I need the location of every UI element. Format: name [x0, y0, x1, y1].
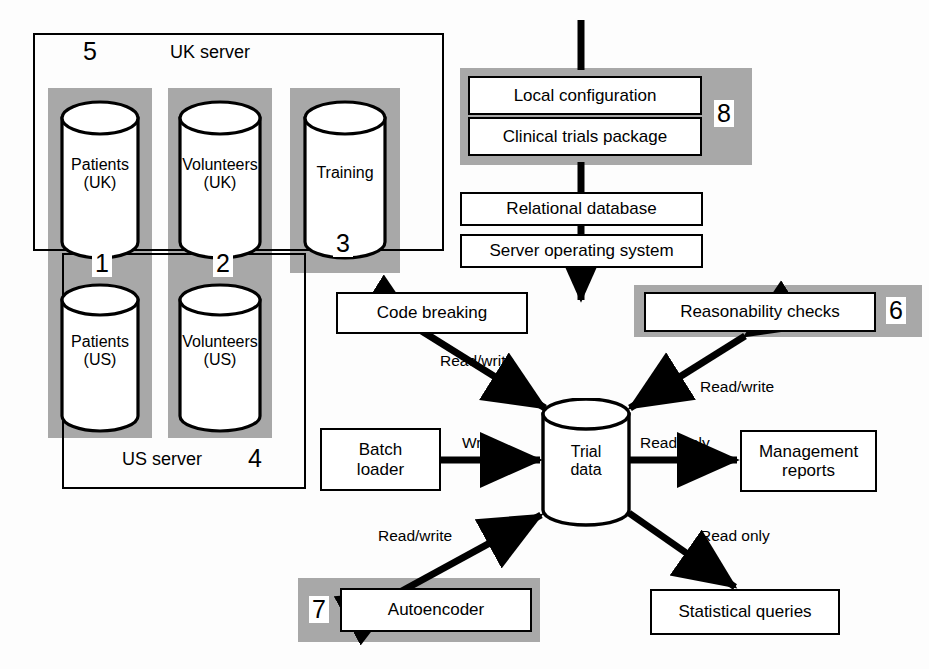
- db-label-line2: (US): [84, 351, 117, 368]
- box-statistical-queries[interactable]: Statistical queries: [650, 589, 840, 635]
- badge-7: 7: [309, 596, 329, 623]
- db-label-line2: (UK): [204, 174, 237, 191]
- trial-data-line1: Trial: [571, 443, 602, 460]
- trial-data-label: Trial data: [541, 443, 631, 479]
- db-patients-uk: Patients (UK): [60, 100, 140, 260]
- db-label: Volunteers (US): [178, 333, 262, 369]
- diagram-canvas: UK server 5 US server 4 Patients (UK) Vo…: [0, 0, 929, 669]
- db-label-line2: (US): [204, 351, 237, 368]
- edge-label-batch-write: Write: [462, 434, 498, 452]
- db-label-line1: Training: [316, 164, 373, 181]
- db-label-line1: Volunteers: [182, 333, 258, 350]
- box-batch-loader[interactable]: Batch loader: [320, 428, 441, 491]
- edge-label-management-read: Read only: [640, 434, 710, 452]
- db-label-line1: Volunteers: [182, 156, 258, 173]
- db-volunteers-us: Volunteers (US): [178, 283, 262, 433]
- db-label-line2: (UK): [84, 174, 117, 191]
- edge-label-reasonability: Read/write: [700, 378, 774, 396]
- box-code-breaking[interactable]: Code breaking: [336, 292, 528, 334]
- edge-label-autoencoder: Read/write: [378, 527, 452, 545]
- us-server-title: US server: [122, 449, 202, 470]
- uk-server-title: UK server: [170, 42, 250, 63]
- batch-loader-line1: Batch: [359, 440, 402, 459]
- trial-data-cylinder: Trial data: [541, 398, 631, 528]
- db-patients-us: Patients (US): [60, 283, 140, 433]
- box-management-reports[interactable]: Management reports: [740, 430, 877, 492]
- badge-8: 8: [714, 100, 734, 127]
- db-label: Patients (US): [60, 333, 140, 369]
- badge-1: 1: [92, 250, 112, 277]
- db-volunteers-uk: Volunteers (UK): [178, 100, 262, 260]
- management-reports-line1: Management: [759, 442, 858, 461]
- uk-server-number: 5: [80, 38, 100, 65]
- box-server-operating-system[interactable]: Server operating system: [460, 234, 703, 268]
- db-label-line1: Patients: [71, 333, 129, 350]
- db-label: Training: [303, 164, 387, 182]
- box-autoencoder[interactable]: Autoencoder: [340, 588, 532, 632]
- trial-data-line2: data: [570, 461, 601, 478]
- badge-2: 2: [213, 250, 233, 277]
- box-reasonability-checks[interactable]: Reasonability checks: [644, 292, 876, 332]
- db-label-line1: Patients: [71, 156, 129, 173]
- management-reports-line2: reports: [782, 461, 835, 480]
- db-label: Patients (UK): [60, 156, 140, 192]
- badge-6: 6: [886, 297, 906, 324]
- box-local-configuration[interactable]: Local configuration: [468, 76, 702, 115]
- db-label: Volunteers (UK): [178, 156, 262, 192]
- box-clinical-trials-package[interactable]: Clinical trials package: [468, 117, 702, 156]
- us-server-number: 4: [245, 445, 265, 472]
- edge-label-statistical-read: Read only: [700, 527, 770, 545]
- box-relational-database[interactable]: Relational database: [460, 192, 703, 226]
- edge-label-code-breaking: Read/write: [440, 352, 514, 370]
- badge-3: 3: [333, 230, 353, 257]
- batch-loader-line2: loader: [357, 460, 404, 479]
